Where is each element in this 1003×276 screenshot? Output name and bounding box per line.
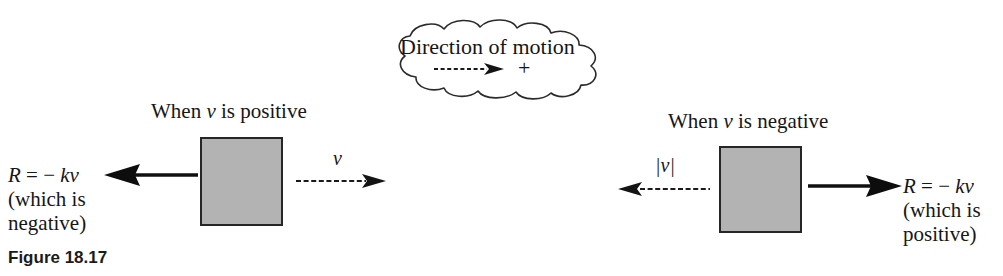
right-force-symbol-R: R [903,174,916,198]
cloud-label-direction-of-motion: Direction of motion [400,35,575,59]
right-heading-prefix: When [668,109,723,133]
right-force-symbol-k: k [955,174,964,198]
cloud-outline-icon [370,16,620,102]
cloud-direction-arrow-icon [432,60,508,78]
right-heading-variable: v [723,109,732,133]
left-force-equals: = [21,163,43,187]
right-force-equation: R = − kv [903,174,981,198]
left-mass-block [200,137,283,226]
right-force-note-line1: (which is [903,198,981,222]
left-velocity-arrow-icon [296,172,388,190]
right-force-symbol-v: v [965,174,974,198]
right-heading-suffix: is negative [733,109,829,133]
left-force-note-line2: negative) [8,211,86,235]
right-velocity-arrow-icon [618,180,710,198]
left-force-note-line1: (which is [8,187,86,211]
left-force-symbol-R: R [8,163,21,187]
left-heading-prefix: When [151,99,206,123]
direction-of-motion-cloud [370,16,620,102]
figure-caption: Figure 18.17 [8,248,107,268]
right-velocity-label: |v| [655,155,675,175]
right-force-label: R = − kv (which is positive) [903,174,981,246]
left-force-minus: − [43,163,60,187]
figure-18-17: Direction of motion + When v is positive… [0,0,1003,276]
left-force-symbol-k: k [60,163,69,187]
left-case-heading: When v is positive [151,99,307,123]
left-force-arrow-icon [104,163,200,187]
cloud-positive-sign: + [518,57,530,79]
right-force-note-line2: positive) [903,222,981,246]
right-force-arrow-icon [806,174,902,198]
right-mass-block [719,146,802,233]
left-force-symbol-v: v [70,163,79,187]
left-force-equation: R = − kv [8,163,86,187]
left-force-label: R = − kv (which is negative) [8,163,86,235]
left-heading-suffix: is positive [216,99,307,123]
right-case-heading: When v is negative [668,109,828,133]
right-force-equals: = [916,174,938,198]
right-force-minus: − [938,174,955,198]
left-velocity-label: v [333,148,342,168]
left-heading-variable: v [206,99,215,123]
